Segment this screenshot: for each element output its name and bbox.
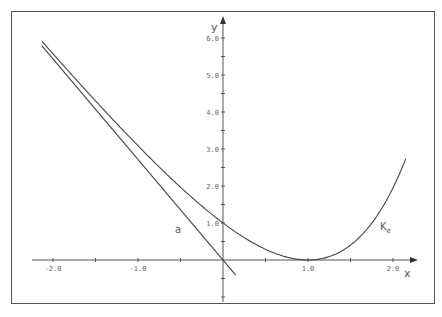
y-tick-label: 2.0 — [206, 183, 219, 191]
function-plot: -2.0-1.01.02.01.02.03.04.05.06.0 x y a K… — [0, 0, 442, 317]
x-tick-label: -1.0 — [130, 265, 147, 273]
y-axis-arrow-icon — [220, 16, 226, 24]
y-tick-label: 1.0 — [206, 220, 219, 228]
curve-label-a: a — [175, 224, 181, 235]
y-tick-label: 3.0 — [206, 146, 219, 154]
tick-labels: -2.0-1.01.02.01.02.03.04.05.06.0 — [45, 35, 400, 274]
x-tick-label: -2.0 — [45, 265, 62, 273]
x-axis-arrow-icon — [410, 257, 418, 263]
axes — [32, 16, 418, 302]
x-tick-label: 2.0 — [387, 265, 400, 273]
curves — [42, 41, 406, 275]
y-tick-label: 4.0 — [206, 109, 219, 117]
curve-k-e — [42, 41, 406, 260]
y-axis-label: y — [211, 21, 218, 34]
y-tick-label: 6.0 — [206, 35, 219, 43]
x-tick-label: 1.0 — [302, 265, 315, 273]
line-a — [42, 46, 236, 275]
y-tick-label: 5.0 — [206, 72, 219, 80]
curve-label-k-e: Ke — [380, 221, 391, 235]
x-axis-label: x — [404, 267, 411, 280]
